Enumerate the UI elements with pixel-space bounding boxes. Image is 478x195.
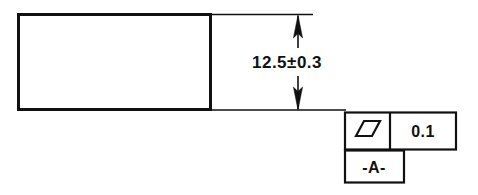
tolerance-value-text: 0.1 xyxy=(411,123,435,140)
datum-reference-text: -A- xyxy=(362,159,386,176)
engineering-drawing-canvas: 12.5±0.3 0.1 -A- xyxy=(0,0,478,195)
part-outline-rectangle xyxy=(19,15,211,110)
dimension-value-text: 12.5±0.3 xyxy=(252,53,322,72)
feature-control-frame-border xyxy=(345,113,456,150)
gdt-drawing-svg: 12.5±0.3 0.1 -A- xyxy=(0,0,478,195)
